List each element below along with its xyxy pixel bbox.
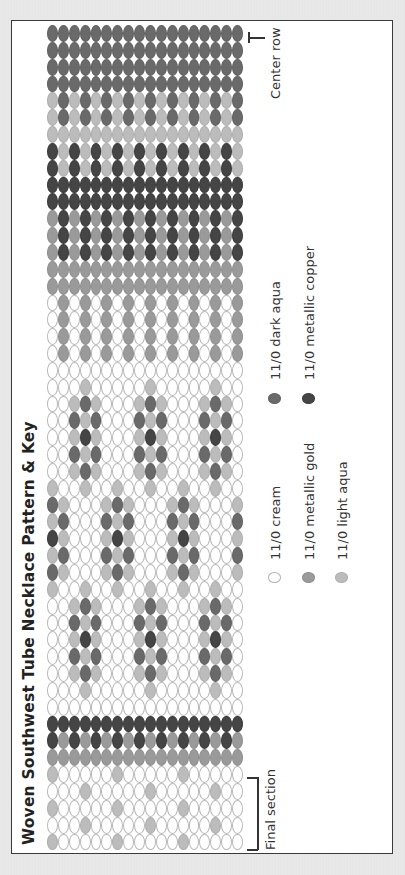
bead <box>232 547 243 564</box>
bead <box>221 564 232 581</box>
bead <box>91 732 102 749</box>
bead <box>91 463 102 480</box>
bead <box>69 716 80 733</box>
bead <box>178 227 189 244</box>
bead <box>91 396 102 413</box>
bead <box>47 598 58 615</box>
bead <box>101 396 112 413</box>
bead <box>167 631 178 648</box>
bead <box>145 295 156 312</box>
legend-label-metallic-gold: 11/0 metallic gold <box>302 443 317 560</box>
bead <box>112 834 123 851</box>
bead <box>221 834 232 851</box>
bead <box>221 126 232 143</box>
bead <box>47 92 58 109</box>
bead <box>167 480 178 497</box>
bead <box>232 59 243 76</box>
bead <box>123 412 134 429</box>
bead <box>167 766 178 783</box>
bead <box>221 648 232 665</box>
bead <box>47 25 58 42</box>
bead <box>221 244 232 261</box>
bead <box>69 631 80 648</box>
bead <box>80 480 91 497</box>
bead <box>145 76 156 93</box>
bead <box>210 126 221 143</box>
page-title: Woven Southwest Tube Necklace Pattern & … <box>20 421 38 845</box>
bead <box>199 76 210 93</box>
bead <box>123 396 134 413</box>
bead <box>189 732 200 749</box>
bead <box>80 227 91 244</box>
bead <box>91 109 102 126</box>
bead <box>156 429 167 446</box>
bead <box>69 227 80 244</box>
bead <box>101 547 112 564</box>
bead <box>112 379 123 396</box>
bead <box>199 513 210 530</box>
bead <box>101 143 112 160</box>
bead <box>112 581 123 598</box>
bead <box>80 581 91 598</box>
bead <box>232 160 243 177</box>
bead <box>221 665 232 682</box>
bead <box>232 412 243 429</box>
bead <box>123 244 134 261</box>
bead <box>69 160 80 177</box>
bead <box>178 446 189 463</box>
bead <box>232 396 243 413</box>
bead <box>199 295 210 312</box>
bead <box>134 193 145 210</box>
bead <box>167 210 178 227</box>
bead <box>134 379 145 396</box>
bead <box>232 834 243 851</box>
bead <box>112 648 123 665</box>
bead <box>189 615 200 632</box>
bead <box>178 244 189 261</box>
bead <box>167 564 178 581</box>
bead <box>178 749 189 766</box>
bead <box>199 800 210 817</box>
bead <box>69 25 80 42</box>
bead <box>178 311 189 328</box>
bead <box>91 345 102 362</box>
bead <box>189 800 200 817</box>
bead <box>145 193 156 210</box>
bead <box>47 834 58 851</box>
bead <box>199 412 210 429</box>
bead <box>112 547 123 564</box>
bead <box>178 42 189 59</box>
bead <box>189 716 200 733</box>
bead <box>58 396 69 413</box>
bead <box>80 513 91 530</box>
bead <box>232 311 243 328</box>
bead <box>189 547 200 564</box>
bead <box>91 648 102 665</box>
bead <box>47 665 58 682</box>
bead <box>178 278 189 295</box>
center-row-marker-stem <box>248 37 265 39</box>
bead <box>58 564 69 581</box>
bead <box>123 429 134 446</box>
bead <box>112 210 123 227</box>
bead <box>199 480 210 497</box>
bead <box>189 92 200 109</box>
bead <box>210 25 221 42</box>
bead <box>145 160 156 177</box>
bead <box>156 783 167 800</box>
bead <box>91 665 102 682</box>
bead <box>58 311 69 328</box>
bead <box>112 749 123 766</box>
bead <box>134 615 145 632</box>
bead <box>221 530 232 547</box>
bead <box>156 682 167 699</box>
bead <box>123 42 134 59</box>
bead <box>156 295 167 312</box>
bead <box>91 261 102 278</box>
bead <box>123 160 134 177</box>
bead <box>58 295 69 312</box>
bead <box>91 749 102 766</box>
bead <box>145 699 156 716</box>
bead <box>101 817 112 834</box>
bead <box>80 463 91 480</box>
